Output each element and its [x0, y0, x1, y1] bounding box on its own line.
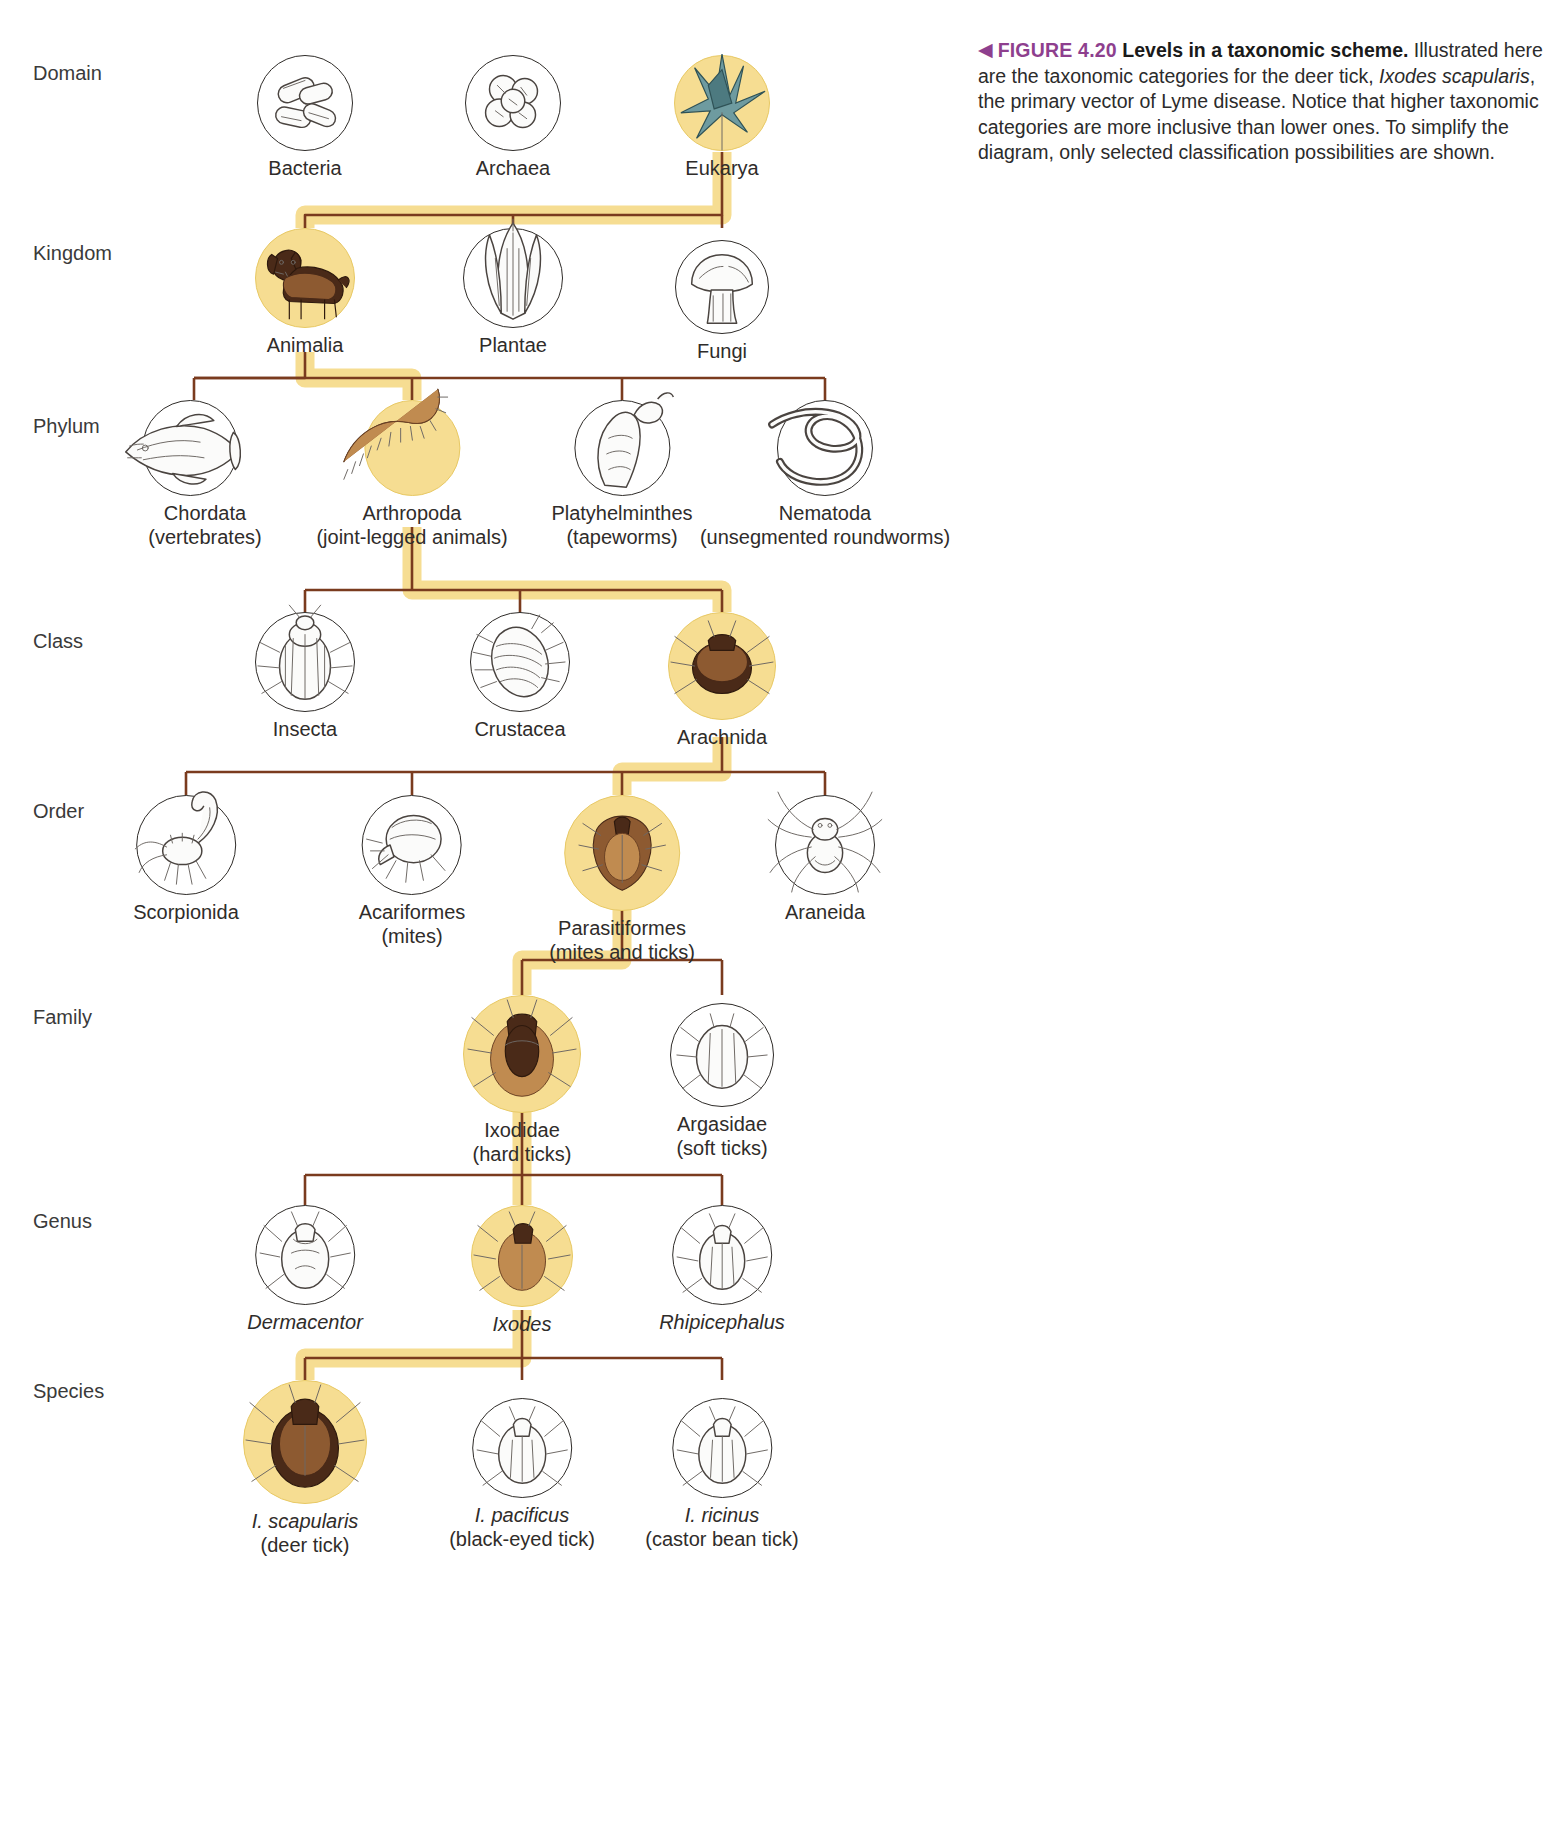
scorpion-icon [136, 795, 236, 895]
corn-plant-icon [463, 228, 563, 328]
node-acariformes[interactable]: Acariformes (mites) [359, 795, 466, 948]
node-label: Rhipicephalus [659, 1310, 785, 1334]
node-sublabel: (mites and ticks) [549, 940, 695, 964]
mushroom-icon [675, 240, 769, 334]
node-label: I. scapularis [243, 1509, 367, 1533]
node-sublabel: (black-eyed tick) [449, 1527, 595, 1551]
node-sublabel: (tapeworms) [551, 525, 692, 549]
isopod-icon [470, 612, 570, 712]
node-label: Ixodidae [463, 1118, 581, 1142]
node-label: Crustacea [470, 717, 570, 741]
tapeworm-icon [574, 400, 670, 496]
node-sublabel: (deer tick) [243, 1533, 367, 1557]
node-sublabel: (castor bean tick) [645, 1527, 798, 1551]
node-ixodidae[interactable]: Ixodidae (hard ticks) [463, 995, 581, 1166]
roundworm-icon [777, 400, 873, 496]
node-arthropoda[interactable]: Arthropoda (joint-legged animals) [316, 400, 507, 549]
node-dermacentor[interactable]: Dermacentor [247, 1205, 363, 1334]
node-label: Scorpionida [133, 900, 239, 924]
node-plantae[interactable]: Plantae [463, 228, 563, 357]
node-sublabel: (unsegmented roundworms) [700, 525, 950, 549]
node-insecta[interactable]: Insecta [255, 612, 355, 741]
spider-icon [775, 795, 875, 895]
node-fungi[interactable]: Fungi [675, 240, 769, 363]
node-label: Archaea [465, 156, 561, 180]
node-label: Animalia [255, 333, 355, 357]
node-bacteria[interactable]: Bacteria [257, 55, 353, 180]
node-label: Ixodes [471, 1312, 573, 1336]
node-label: Dermacentor [247, 1310, 363, 1334]
black-eyed-tick-icon [472, 1398, 572, 1498]
node-label: Platyhelminthes [551, 501, 692, 525]
node-eukarya[interactable]: Eukarya [674, 55, 770, 180]
node-label: Plantae [463, 333, 563, 357]
node-label: Parasitiformes [549, 916, 695, 940]
dermacentor-icon [255, 1205, 355, 1305]
node-i-pacificus[interactable]: I. pacificus (black-eyed tick) [449, 1398, 595, 1551]
soft-tick-icon [670, 1003, 774, 1107]
node-sublabel: (joint-legged animals) [316, 525, 507, 549]
node-ixodes[interactable]: Ixodes [471, 1205, 573, 1336]
deer-tick-icon [243, 1380, 367, 1504]
node-label: Bacteria [257, 156, 353, 180]
taxonomy-figure: ◀FIGURE 4.20 Levels in a taxonomic schem… [0, 0, 1553, 1840]
node-parasitiformes[interactable]: Parasitiformes (mites and ticks) [549, 795, 695, 964]
node-label: Fungi [675, 339, 769, 363]
node-argasidae[interactable]: Argasidae (soft ticks) [670, 1003, 774, 1160]
node-sublabel: (vertebrates) [148, 525, 261, 549]
castor-bean-tick-icon [672, 1398, 772, 1498]
node-araneida[interactable]: Araneida [775, 795, 875, 924]
node-i-ricinus[interactable]: I. ricinus (castor bean tick) [645, 1398, 798, 1551]
node-label: Eukarya [674, 156, 770, 180]
fish-icon [142, 400, 238, 496]
node-arachnida[interactable]: Arachnida [668, 612, 776, 749]
tick-ventral-icon [564, 795, 680, 911]
rhipicephalus-icon [672, 1205, 772, 1305]
beetle-icon [255, 612, 355, 712]
node-label: Insecta [255, 717, 355, 741]
node-label: I. pacificus [449, 1503, 595, 1527]
node-label: Acariformes [359, 900, 466, 924]
node-label: Argasidae [670, 1112, 774, 1136]
node-platyhelminthes[interactable]: Platyhelminthes (tapeworms) [551, 400, 692, 549]
node-crustacea[interactable]: Crustacea [470, 612, 570, 741]
node-label: Arachnida [668, 725, 776, 749]
node-sublabel: (mites) [359, 924, 466, 948]
node-label: Arthropoda [316, 501, 507, 525]
node-animalia[interactable]: Animalia [255, 228, 355, 357]
node-label: Araneida [775, 900, 875, 924]
node-sublabel: (hard ticks) [463, 1142, 581, 1166]
node-i-scapularis[interactable]: I. scapularis (deer tick) [243, 1380, 367, 1557]
node-nematoda[interactable]: Nematoda (unsegmented roundworms) [700, 400, 950, 549]
archaea-cluster-icon [465, 55, 561, 151]
ixodes-icon [471, 1205, 573, 1307]
bacilli-icon [257, 55, 353, 151]
node-label: I. ricinus [645, 1503, 798, 1527]
mite-icon [362, 795, 462, 895]
centipede-icon [364, 400, 460, 496]
tick-dorsal-icon [668, 612, 776, 720]
hard-tick-icon [463, 995, 581, 1113]
node-label: Chordata [148, 501, 261, 525]
node-label: Nematoda [700, 501, 950, 525]
protist-flagellate-icon [674, 55, 770, 151]
node-archaea[interactable]: Archaea [465, 55, 561, 180]
node-rhipicephalus[interactable]: Rhipicephalus [659, 1205, 785, 1334]
node-sublabel: (soft ticks) [670, 1136, 774, 1160]
node-scorpionida[interactable]: Scorpionida [133, 795, 239, 924]
node-chordata[interactable]: Chordata (vertebrates) [148, 400, 261, 549]
dog-icon [255, 228, 355, 328]
